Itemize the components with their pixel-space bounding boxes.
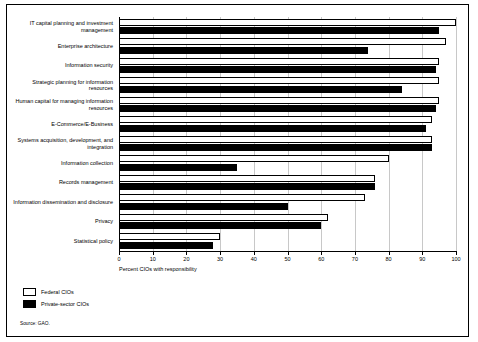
bar-private bbox=[119, 144, 432, 151]
bar-federal bbox=[119, 19, 456, 26]
x-axis-tick bbox=[254, 251, 255, 255]
x-axis-tick-label: 90 bbox=[410, 256, 434, 262]
bar-federal bbox=[119, 97, 439, 104]
bar-federal bbox=[119, 77, 439, 84]
x-axis-tick-label: 30 bbox=[208, 256, 232, 262]
category-label: Statistical policy bbox=[7, 238, 113, 245]
x-axis-tick bbox=[153, 251, 154, 255]
bar-federal bbox=[119, 214, 328, 221]
bar-private bbox=[119, 242, 213, 249]
x-axis-tick-label: 60 bbox=[309, 256, 333, 262]
legend-label-federal: Federal CIOs bbox=[41, 289, 74, 295]
bar-federal bbox=[119, 155, 389, 162]
bar-federal bbox=[119, 175, 375, 182]
legend-swatch-private bbox=[23, 300, 36, 308]
bar-private bbox=[119, 183, 375, 190]
x-axis-tick-label: 40 bbox=[242, 256, 266, 262]
legend-label-private: Private-sector CIOs bbox=[41, 301, 89, 307]
x-axis-tick bbox=[389, 251, 390, 255]
category-label: Information collection bbox=[7, 160, 113, 167]
x-axis-tick bbox=[456, 251, 457, 255]
x-axis-tick bbox=[186, 251, 187, 255]
bar-private bbox=[119, 164, 237, 171]
category-label: Information dissemination and disclosure bbox=[7, 199, 113, 206]
x-axis-label: Percent CIOs with responsibility bbox=[119, 266, 197, 272]
bar-federal bbox=[119, 233, 220, 240]
x-axis-tick bbox=[119, 251, 120, 255]
x-axis-tick bbox=[288, 251, 289, 255]
legend-item-federal: Federal CIOs bbox=[23, 287, 89, 297]
x-axis-tick bbox=[220, 251, 221, 255]
x-axis-tick-label: 10 bbox=[141, 256, 165, 262]
grid-line bbox=[389, 17, 390, 251]
bar-private bbox=[119, 27, 439, 34]
bar-private bbox=[119, 66, 436, 73]
x-axis-tick-label: 20 bbox=[174, 256, 198, 262]
x-axis-tick-label: 0 bbox=[107, 256, 131, 262]
category-label: Systems acquisition, development, and in… bbox=[7, 137, 113, 150]
bar-federal bbox=[119, 58, 439, 65]
bar-private bbox=[119, 203, 288, 210]
category-label: E-Commerce/E-Business bbox=[7, 121, 113, 128]
category-label: Records management bbox=[7, 179, 113, 186]
x-axis-tick-label: 70 bbox=[343, 256, 367, 262]
category-label: Human capital for managing information r… bbox=[7, 98, 113, 111]
bar-private bbox=[119, 222, 321, 229]
x-axis-tick bbox=[422, 251, 423, 255]
category-label: Information security bbox=[7, 62, 113, 69]
chart-legend: Federal CIOs Private-sector CIOs bbox=[23, 287, 89, 311]
bar-private bbox=[119, 86, 402, 93]
bar-private bbox=[119, 105, 436, 112]
bar-federal bbox=[119, 38, 446, 45]
x-axis-tick bbox=[355, 251, 356, 255]
category-label: Privacy bbox=[7, 218, 113, 225]
bar-federal bbox=[119, 136, 432, 143]
x-axis-tick-label: 50 bbox=[276, 256, 300, 262]
chart-page: Percent CIOs with responsibility Federal… bbox=[0, 0, 478, 342]
grid-line bbox=[456, 17, 457, 251]
bar-private bbox=[119, 125, 426, 132]
source-note: Source: GAO. bbox=[20, 321, 50, 326]
x-axis-tick-label: 100 bbox=[444, 256, 468, 262]
bar-federal bbox=[119, 116, 432, 123]
category-label: Strategic planning for information resou… bbox=[7, 79, 113, 92]
grid-line bbox=[422, 17, 423, 251]
bar-private bbox=[119, 47, 368, 54]
chart-frame: Percent CIOs with responsibility Federal… bbox=[6, 4, 469, 337]
x-axis-tick-label: 80 bbox=[377, 256, 401, 262]
x-axis-tick bbox=[321, 251, 322, 255]
legend-swatch-federal bbox=[23, 288, 36, 296]
category-label: IT capital planning and investment manag… bbox=[7, 20, 113, 33]
category-label: Enterprise architecture bbox=[7, 43, 113, 50]
legend-item-private: Private-sector CIOs bbox=[23, 299, 89, 309]
bar-federal bbox=[119, 194, 365, 201]
